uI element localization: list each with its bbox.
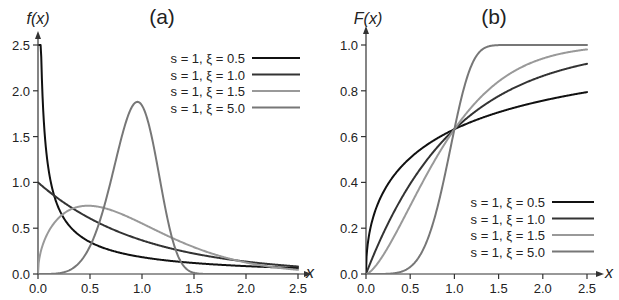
y-tick-label: 0.4: [340, 175, 358, 190]
figure: (a) f(x) x 0.00.51.01.52.02.50.00.51.01.…: [0, 0, 619, 300]
x-tick-label: 1.5: [185, 281, 203, 296]
x-axis-arrow-icon: [596, 271, 604, 277]
panel-b-xlabel: x: [604, 264, 614, 281]
x-tick-label: 1.0: [133, 281, 151, 296]
panel-a-title: (a): [149, 5, 175, 28]
x-tick-label: 2.0: [237, 281, 255, 296]
x-tick-label: 2.5: [289, 281, 307, 296]
y-tick-label: 0.5: [12, 221, 30, 236]
y-tick-label: 1.0: [340, 38, 358, 53]
x-tick-label: 0.5: [401, 281, 419, 296]
panel-b-title: (b): [481, 5, 507, 28]
legend-label: s = 1, ξ = 0.5: [471, 195, 545, 210]
panel-a-pdf: (a) f(x) x 0.00.51.01.52.02.50.00.51.01.…: [12, 5, 315, 296]
y-axis-arrow-icon: [35, 31, 41, 39]
y-axis-arrow-icon: [363, 26, 369, 34]
panel-a-ylabel: f(x): [26, 10, 49, 27]
curve-xi-0-5: [39, 45, 298, 268]
y-tick-label: 0.2: [340, 221, 358, 236]
x-tick-label: 2.0: [534, 281, 552, 296]
y-tick-label: 2.5: [12, 38, 30, 53]
y-tick-label: 1.0: [12, 175, 30, 190]
x-tick-label: 2.5: [578, 281, 596, 296]
legend-label: s = 1, ξ = 0.5: [171, 51, 245, 66]
x-tick-label: 1.0: [445, 281, 463, 296]
y-tick-label: 1.5: [12, 130, 30, 145]
legend-label: s = 1, ξ = 1.0: [171, 68, 245, 83]
y-tick-label: 0.8: [340, 84, 358, 99]
panel-b-ylabel: F(x): [354, 10, 382, 27]
legend-label: s = 1, ξ = 1.5: [471, 228, 545, 243]
legend-label: s = 1, ξ = 1.5: [171, 84, 245, 99]
y-tick-label: 0.0: [12, 267, 30, 282]
x-tick-label: 0.5: [81, 281, 99, 296]
y-tick-label: 0.0: [340, 267, 358, 282]
y-tick-label: 0.6: [340, 130, 358, 145]
panel-b-cdf: (b) F(x) x 0.00.51.01.52.02.50.00.20.40.…: [340, 5, 614, 296]
x-tick-label: 1.5: [490, 281, 508, 296]
y-tick-label: 2.0: [12, 84, 30, 99]
x-tick-label: 0.0: [357, 281, 375, 296]
legend-label: s = 1, ξ = 5.0: [471, 245, 545, 260]
legend-label: s = 1, ξ = 1.0: [471, 212, 545, 227]
x-tick-label: 0.0: [29, 281, 47, 296]
legend-label: s = 1, ξ = 5.0: [171, 101, 245, 116]
